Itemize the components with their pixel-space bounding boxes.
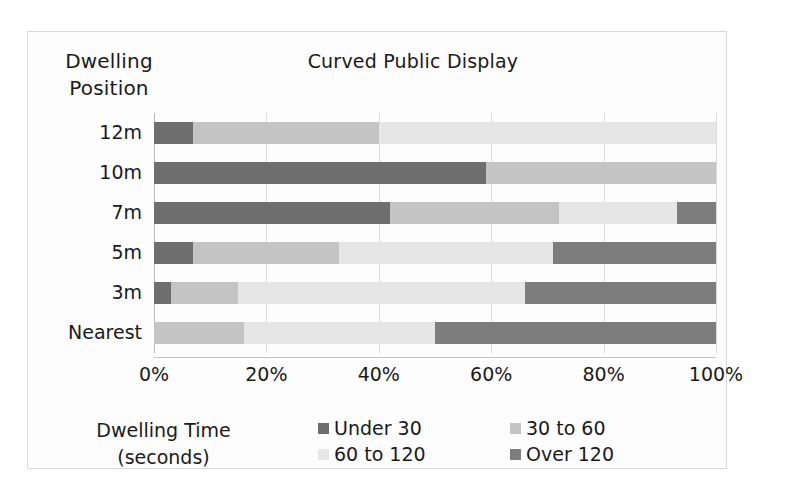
legend-label: Under 30 [334, 417, 422, 439]
bar-row: 5m [154, 233, 716, 273]
stacked-bar[interactable] [154, 322, 716, 344]
bar-segment[interactable] [154, 242, 193, 264]
legend-label: Over 120 [526, 443, 614, 465]
category-label: 3m [111, 281, 142, 303]
bar-segment[interactable] [559, 202, 677, 224]
x-tick-label: 20% [245, 363, 287, 385]
legend-label: 60 to 120 [334, 443, 426, 465]
bar-segment[interactable] [193, 242, 339, 264]
bar-segment[interactable] [154, 322, 244, 344]
legend-swatch-icon [318, 449, 329, 460]
bar-segment[interactable] [435, 322, 716, 344]
bar-segment[interactable] [553, 242, 716, 264]
bar-row: 10m [154, 153, 716, 193]
x-axis-title: Dwelling Time (seconds) [56, 417, 271, 471]
legend-label: 30 to 60 [526, 417, 606, 439]
bar-segment[interactable] [390, 202, 559, 224]
x-axis-line [154, 357, 716, 358]
legend-swatch-icon [318, 423, 329, 434]
stacked-bar[interactable] [154, 122, 716, 144]
category-label: Nearest [68, 321, 142, 343]
legend-swatch-icon [510, 423, 521, 434]
bar-segment[interactable] [339, 242, 553, 264]
bar-row: 7m [154, 193, 716, 233]
legend: Under 3030 to 6060 to 120Over 120 [318, 417, 698, 465]
bar-segment[interactable] [244, 322, 435, 344]
legend-item[interactable]: 30 to 60 [510, 417, 670, 439]
bar-segment[interactable] [193, 122, 378, 144]
x-tick-label: 80% [582, 363, 624, 385]
bar-segment[interactable] [379, 122, 716, 144]
category-label: 10m [99, 161, 142, 183]
x-axis-title-line-2: (seconds) [56, 444, 271, 471]
gridline [716, 113, 717, 353]
stacked-bar[interactable] [154, 162, 716, 184]
legend-item[interactable]: Under 30 [318, 417, 478, 439]
x-axis: 0%20%40%60%80%100% [154, 357, 716, 385]
bar-segment[interactable] [154, 282, 171, 304]
bar-row: 12m [154, 113, 716, 153]
bar-segment[interactable] [171, 282, 238, 304]
plot-area: 12m10m7m5m3mNearest [154, 113, 716, 353]
bar-segment[interactable] [677, 202, 716, 224]
y-axis-title: Dwelling Position [50, 48, 168, 102]
stacked-bar[interactable] [154, 282, 716, 304]
bar-segment[interactable] [525, 282, 716, 304]
stacked-bar[interactable] [154, 202, 716, 224]
x-tick-label: 60% [470, 363, 512, 385]
bar-segment[interactable] [154, 162, 486, 184]
x-tick-label: 100% [689, 363, 743, 385]
legend-item[interactable]: Over 120 [510, 443, 670, 465]
x-tick-label: 0% [139, 363, 169, 385]
bar-segment[interactable] [154, 202, 390, 224]
stacked-bar[interactable] [154, 242, 716, 264]
bar-segment[interactable] [486, 162, 716, 184]
bar-row: Nearest [154, 313, 716, 353]
category-label: 5m [111, 241, 142, 263]
legend-swatch-icon [510, 449, 521, 460]
chart-figure: Dwelling Position Curved Public Display … [27, 31, 727, 469]
category-label: 12m [99, 121, 142, 143]
bar-segment[interactable] [238, 282, 525, 304]
chart-title: Curved Public Display [178, 50, 648, 72]
category-label: 7m [111, 201, 142, 223]
x-axis-title-line-1: Dwelling Time [56, 417, 271, 444]
bar-row: 3m [154, 273, 716, 313]
legend-item[interactable]: 60 to 120 [318, 443, 478, 465]
bar-segment[interactable] [154, 122, 193, 144]
x-tick-label: 40% [358, 363, 400, 385]
